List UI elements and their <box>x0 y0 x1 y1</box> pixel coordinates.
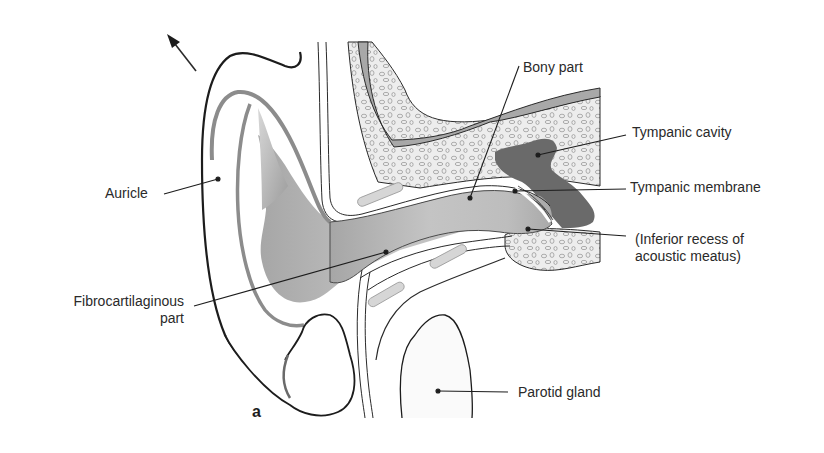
label-fibrocartilaginous-line1: Fibrocartilaginous <box>47 293 184 310</box>
label-fibrocartilaginous-part: Fibrocartilaginous part <box>47 293 184 327</box>
label-tympanic-cavity: Tympanic cavity <box>632 124 732 141</box>
label-fibrocartilaginous-line2: part <box>47 310 184 327</box>
parotid-gland-outline <box>400 315 472 418</box>
ear-illustration <box>0 0 824 453</box>
label-auricle: Auricle <box>105 185 148 202</box>
panel-letter: a <box>252 403 261 421</box>
temporal-bone-lower <box>505 229 600 271</box>
label-inferior-recess: (Inferior recess of acoustic meatus) <box>635 231 744 265</box>
label-parotid-gland: Parotid gland <box>518 384 601 401</box>
label-inferior-recess-line2: acoustic meatus) <box>635 248 744 265</box>
cartilage-bar-1 <box>356 181 404 207</box>
label-bony-part: Bony part <box>523 59 583 76</box>
leader-auricle <box>164 179 218 194</box>
skin-descending-line-2 <box>365 272 373 418</box>
ear-anatomy-diagram: Auricle Fibrocartilaginous part Bony par… <box>0 0 824 453</box>
skin-descending-line-1 <box>357 270 365 418</box>
label-inferior-recess-line1: (Inferior recess of <box>635 231 744 248</box>
label-tympanic-membrane: Tympanic membrane <box>630 179 761 196</box>
direction-arrow-icon <box>167 34 196 71</box>
cartilage-bar-2 <box>428 243 468 270</box>
cartilage-bar-3 <box>367 281 406 309</box>
lobule-outline <box>225 314 354 415</box>
